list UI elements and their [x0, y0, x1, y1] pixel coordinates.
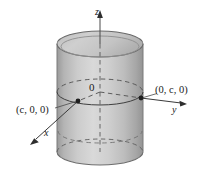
y-axis-arrowhead	[180, 101, 188, 107]
y-axis-label: y	[172, 105, 176, 115]
z-axis-label: z	[95, 7, 99, 17]
x-axis-arrowhead	[30, 138, 39, 145]
point-0c0-dot	[139, 96, 144, 101]
point-0c0-label: (0, c, 0)	[155, 85, 188, 96]
point-c00-dot	[76, 99, 81, 104]
cylinder-solid	[57, 31, 143, 165]
point-c00-label: (c, 0, 0)	[16, 105, 49, 116]
origin-label: 0	[89, 82, 95, 93]
x-axis-label: x	[44, 128, 48, 138]
y-axis-shaft	[141, 98, 181, 103]
figure-canvas: z y x 0 (c, 0, 0) (0, c, 0)	[0, 0, 202, 171]
